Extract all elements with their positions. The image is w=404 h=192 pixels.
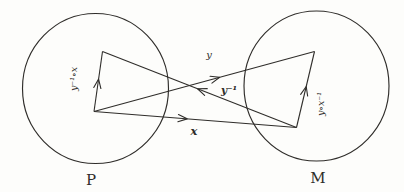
arrow-map-y-inverse-after-x-line — [94, 52, 103, 112]
arrow-map-y-line — [94, 52, 315, 112]
arrow-map-y-inverse-label: y⁻¹ — [220, 84, 237, 96]
set-P-circle — [23, 14, 169, 164]
arrow-map-y-inverse-line — [103, 52, 297, 128]
arrow-map-y-after-x-inverse-line — [297, 52, 315, 128]
arrow-map-y-inverse-after-x-label: y⁻¹∘x — [68, 66, 79, 92]
arrow-map-y-label: y — [205, 49, 212, 60]
scanned-figure-page: PMxyy⁻¹y⁻¹∘xy∘x⁻¹ — [0, 0, 404, 192]
set-P-label: P — [86, 171, 96, 189]
set-maps-composition-diagram: PMxyy⁻¹y⁻¹∘xy∘x⁻¹ — [0, 0, 404, 192]
arrow-map-y-after-x-inverse-label: y∘x⁻¹ — [315, 92, 326, 117]
set-M-label: M — [310, 169, 325, 187]
arrow-map-x-label: x — [190, 124, 198, 138]
set-M-circle — [244, 11, 389, 161]
